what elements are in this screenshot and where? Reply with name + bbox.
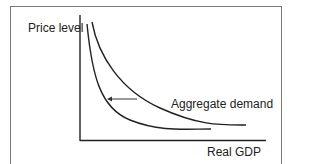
x-axis-label: Real GDP: [207, 145, 261, 159]
y-axis-label: Price level: [28, 21, 83, 35]
shift-arrow-head-icon: [107, 97, 112, 102]
curve-label: Aggregate demand: [171, 97, 273, 111]
aggregate-demand-shifted-curve: [87, 24, 211, 129]
